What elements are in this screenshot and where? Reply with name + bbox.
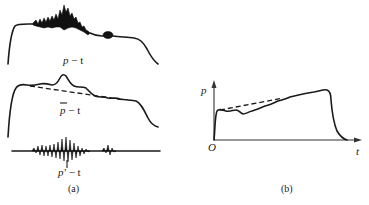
panel-a: p − t p − t p′ − t (a) [8, 5, 160, 195]
dashed-baseline-a [30, 86, 125, 100]
label-pprime-t: p′ − t [57, 166, 81, 178]
panel-b: p O t (b) [200, 80, 362, 195]
noise-band-top [33, 5, 90, 35]
figure-canvas: p − t p − t p′ − t (a) p O t [0, 0, 369, 205]
noise-burst-small [102, 145, 116, 155]
noise-burst-main [32, 137, 90, 162]
trace-pbar-t: p − t [8, 75, 158, 137]
x-axis-arrow-icon [354, 138, 362, 143]
x-axis-label: t [356, 145, 360, 157]
label-pbar-t: p − t [59, 104, 80, 116]
trace-p-t: p − t [8, 5, 158, 66]
y-axis-label: p [200, 84, 207, 96]
dashed-baseline-b [220, 98, 283, 110]
y-axis-arrow-icon [212, 80, 217, 88]
noise-bump [103, 32, 113, 39]
curve-pbar-t [8, 75, 158, 137]
label-p-t: p − t [62, 54, 83, 66]
origin-label: O [208, 141, 216, 153]
caption-b: (b) [281, 183, 293, 195]
curve-p-t-b [214, 90, 347, 140]
pressure-time-figure: p − t p − t p′ − t (a) p O t [0, 0, 369, 205]
caption-a: (a) [68, 183, 79, 195]
trace-pprime-t: p′ − t [12, 137, 160, 178]
